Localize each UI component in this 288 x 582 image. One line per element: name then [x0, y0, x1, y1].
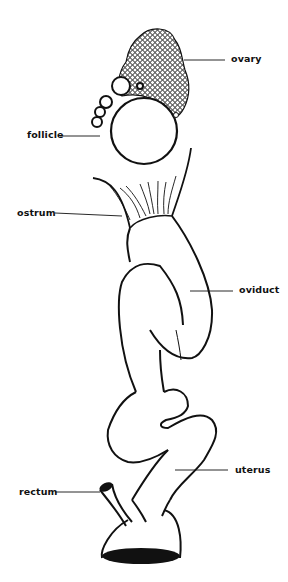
large-follicle: [111, 98, 177, 164]
label-uterus: uterus: [235, 465, 270, 475]
label-oviduct: oviduct: [239, 285, 279, 295]
convolution-shape: [108, 390, 216, 500]
label-ovary: ovary: [231, 54, 262, 64]
label-ostrum: ostrum: [17, 208, 56, 218]
label-follicle: follicle: [27, 130, 64, 140]
cloaca-opening: [102, 548, 180, 564]
oviduct-shape: [119, 216, 212, 392]
label-rectum: rectum: [19, 487, 58, 497]
